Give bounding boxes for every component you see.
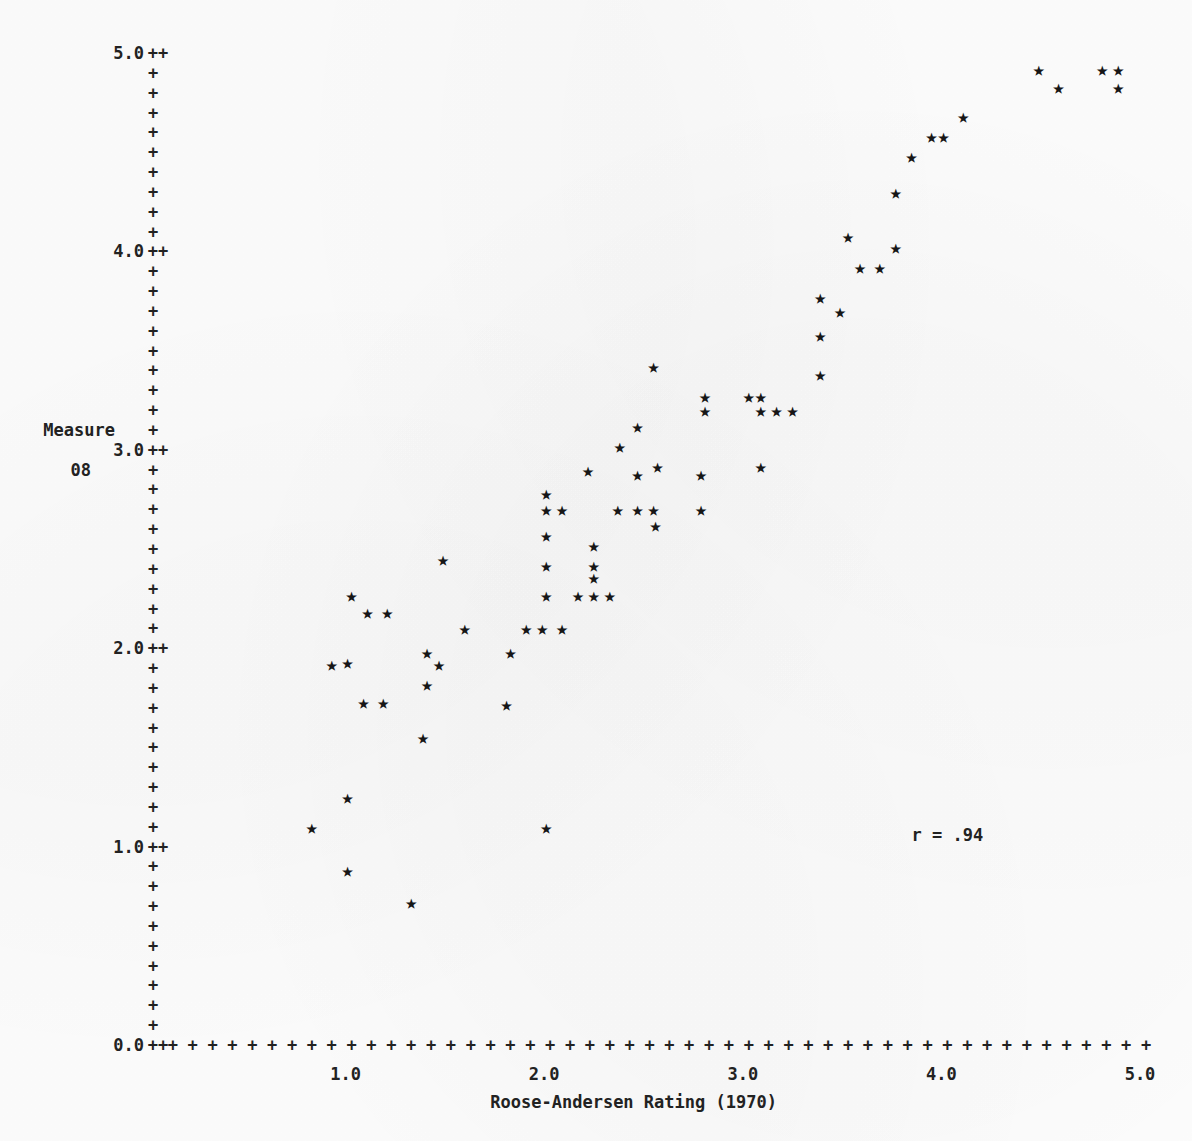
data-point-marker: ★ bbox=[536, 618, 548, 638]
x-axis-minor-tick: + bbox=[386, 1037, 396, 1054]
y-axis-minor-tick: + bbox=[148, 917, 158, 934]
x-axis-minor-tick: + bbox=[863, 1037, 873, 1054]
x-axis-minor-tick: + bbox=[1101, 1037, 1111, 1054]
y-axis-minor-tick: + bbox=[148, 898, 158, 915]
scatter-plot-page: ++0.0+++++++++++1.0+++++++++++2.0+++++++… bbox=[0, 0, 1192, 1141]
data-point-marker: ★ bbox=[417, 727, 429, 747]
y-axis-minor-tick: + bbox=[148, 183, 158, 200]
y-axis-minor-tick: + bbox=[148, 283, 158, 300]
y-axis-tick-label: 1.0 bbox=[113, 838, 144, 855]
data-point-marker: ★ bbox=[957, 106, 969, 126]
data-point-marker: ★ bbox=[695, 499, 707, 519]
data-point-marker: ★ bbox=[755, 400, 767, 420]
y-axis-major-tick: ++ bbox=[148, 838, 168, 855]
y-axis-minor-tick: + bbox=[148, 818, 158, 835]
y-axis-minor-tick: + bbox=[148, 541, 158, 558]
x-axis-minor-tick: + bbox=[664, 1037, 674, 1054]
y-axis-minor-tick: + bbox=[148, 362, 158, 379]
y-axis-minor-tick: + bbox=[148, 600, 158, 617]
data-point-marker: ★ bbox=[755, 456, 767, 476]
data-point-marker: ★ bbox=[874, 257, 886, 277]
data-point-marker: ★ bbox=[1096, 59, 1108, 79]
x-axis-minor-tick: + bbox=[1042, 1037, 1052, 1054]
y-axis-tick-label: 3.0 bbox=[113, 441, 144, 458]
x-axis-major-tick: + bbox=[545, 1037, 555, 1054]
data-point-marker: ★ bbox=[540, 555, 552, 575]
y-axis-major-tick: ++ bbox=[148, 45, 168, 62]
data-point-marker: ★ bbox=[814, 287, 826, 307]
data-point-marker: ★ bbox=[651, 456, 663, 476]
data-point-marker: ★ bbox=[814, 364, 826, 384]
y-axis-minor-tick: + bbox=[148, 580, 158, 597]
x-axis-minor-tick: + bbox=[724, 1037, 734, 1054]
data-point-marker: ★ bbox=[890, 182, 902, 202]
y-axis-minor-tick: + bbox=[148, 858, 158, 875]
data-point-marker: ★ bbox=[695, 464, 707, 484]
data-point-marker: ★ bbox=[504, 642, 516, 662]
y-axis-minor-tick: + bbox=[148, 382, 158, 399]
y-axis-tick-label: 0.0 bbox=[113, 1037, 144, 1054]
y-axis-minor-tick: + bbox=[148, 878, 158, 895]
data-point-marker: ★ bbox=[699, 400, 711, 420]
data-point-marker: ★ bbox=[500, 694, 512, 714]
x-axis-title: Roose-Andersen Rating (1970) bbox=[490, 1092, 777, 1112]
y-axis-minor-tick: + bbox=[148, 481, 158, 498]
y-axis-minor-tick: + bbox=[148, 699, 158, 716]
data-point-marker: ★ bbox=[1112, 77, 1124, 97]
x-axis-minor-tick: + bbox=[1061, 1037, 1071, 1054]
data-point-marker: ★ bbox=[834, 301, 846, 321]
x-axis-minor-tick: + bbox=[883, 1037, 893, 1054]
y-axis-minor-tick: + bbox=[148, 461, 158, 478]
x-axis-minor-tick: + bbox=[287, 1037, 297, 1054]
y-axis-minor-tick: + bbox=[148, 1017, 158, 1034]
x-axis-minor-tick: + bbox=[684, 1037, 694, 1054]
data-point-marker: ★ bbox=[459, 618, 471, 638]
data-point-marker: ★ bbox=[361, 602, 373, 622]
y-axis-minor-tick: + bbox=[148, 739, 158, 756]
y-axis-minor-tick: + bbox=[148, 719, 158, 736]
x-axis-major-tick: + bbox=[942, 1037, 952, 1054]
data-point-marker: ★ bbox=[906, 146, 918, 166]
x-axis-tick-label: 2.0 bbox=[529, 1066, 560, 1083]
data-point-marker: ★ bbox=[556, 499, 568, 519]
y-axis-minor-tick: + bbox=[148, 521, 158, 538]
x-axis-minor-tick: + bbox=[426, 1037, 436, 1054]
x-axis-minor-tick: + bbox=[625, 1037, 635, 1054]
data-point-marker: ★ bbox=[377, 692, 389, 712]
y-axis-minor-tick: + bbox=[148, 957, 158, 974]
x-axis-minor-tick: + bbox=[644, 1037, 654, 1054]
y-axis-minor-tick: + bbox=[148, 263, 158, 280]
y-axis-minor-tick: + bbox=[148, 937, 158, 954]
data-point-marker: ★ bbox=[405, 892, 417, 912]
x-axis-minor-tick: + bbox=[525, 1037, 535, 1054]
x-axis-minor-tick: + bbox=[247, 1037, 257, 1054]
data-point-marker: ★ bbox=[540, 817, 552, 837]
data-point-marker: ★ bbox=[1053, 77, 1065, 97]
data-point-marker: ★ bbox=[588, 535, 600, 555]
data-point-marker: ★ bbox=[572, 585, 584, 605]
y-axis-minor-tick: + bbox=[148, 144, 158, 161]
y-axis-tick-label: 5.0 bbox=[113, 45, 144, 62]
data-point-marker: ★ bbox=[937, 126, 949, 146]
x-axis-minor-tick: + bbox=[704, 1037, 714, 1054]
x-axis-major-tick: + bbox=[346, 1037, 356, 1054]
y-axis-minor-tick: + bbox=[148, 203, 158, 220]
x-axis-minor-tick: + bbox=[227, 1037, 237, 1054]
y-axis-minor-tick: + bbox=[148, 501, 158, 518]
x-axis-minor-tick: + bbox=[783, 1037, 793, 1054]
data-point-marker: ★ bbox=[437, 549, 449, 569]
data-point-marker: ★ bbox=[346, 585, 358, 605]
x-axis-minor-tick: + bbox=[307, 1037, 317, 1054]
y-axis-minor-tick: + bbox=[148, 560, 158, 577]
data-point-marker: ★ bbox=[842, 226, 854, 246]
y-axis-minor-tick: + bbox=[148, 679, 158, 696]
y-axis-tick-label: 2.0 bbox=[113, 640, 144, 657]
y-axis-minor-tick: + bbox=[148, 977, 158, 994]
x-axis-minor-tick: + bbox=[267, 1037, 277, 1054]
data-point-marker: ★ bbox=[588, 567, 600, 587]
data-point-marker: ★ bbox=[614, 436, 626, 456]
data-point-marker: ★ bbox=[520, 618, 532, 638]
x-axis-minor-tick: + bbox=[1121, 1037, 1131, 1054]
y-axis-minor-tick: + bbox=[148, 342, 158, 359]
data-point-marker: ★ bbox=[632, 499, 644, 519]
